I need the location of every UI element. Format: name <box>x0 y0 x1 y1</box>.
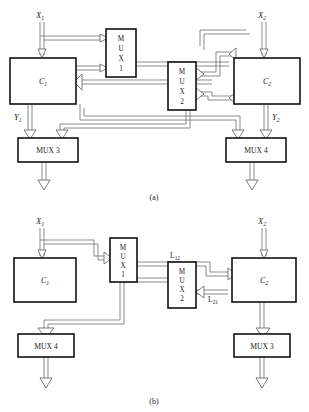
arrowhead-c2-to-mux2-b <box>196 88 204 100</box>
arrowhead-l21-to-mux2 <box>196 286 204 298</box>
block-mux3-label: MUX 3 <box>36 146 60 155</box>
block-mux2-letter-0: M <box>179 68 186 76</box>
block-mux4-label-b: MUX 4 <box>34 342 58 351</box>
input-x2-label: X2 <box>257 10 266 21</box>
input-x1-label: X1 <box>35 10 44 21</box>
arrowhead-c2-to-mux2-a <box>196 68 204 80</box>
block-mux2-letter-3-b: 2 <box>180 295 184 303</box>
block-mux1-letter-1: U <box>118 45 124 53</box>
signal-l21-label: L21 <box>208 295 218 305</box>
block-mux1-letter-2: X <box>118 55 124 63</box>
block-mux3-label-b: MUX 3 <box>250 342 274 351</box>
block-mux4-label: MUX 4 <box>244 146 268 155</box>
block-mux1-letter-3-b: 1 <box>121 271 125 279</box>
figure-root: C1 M U X 1 M U X 2 C2 MUX 3 MUX 4 X1 X2 … <box>0 0 309 412</box>
arrowhead-mux3-output-b <box>256 378 268 388</box>
caption-b: (b) <box>149 397 159 406</box>
block-mux2-letter-1: U <box>179 78 185 86</box>
block-mux2-letter-2: X <box>179 88 185 96</box>
arrowhead-mux3-output <box>38 180 50 190</box>
block-diagram-figure: C1 M U X 1 M U X 2 C2 MUX 3 MUX 4 X1 X2 … <box>0 0 309 412</box>
block-mux2-letter-2-b: X <box>179 286 185 294</box>
block-mux1-letter-0-b: M <box>120 244 127 252</box>
diagram-a: C1 M U X 1 M U X 2 C2 MUX 3 MUX 4 X1 X2 … <box>10 10 300 202</box>
block-mux2-letter-1-b: U <box>179 277 185 285</box>
arrowhead-mux4-output-b <box>40 378 52 388</box>
arrowhead-x1-to-c1 <box>38 49 46 58</box>
block-mux1-letter-1-b: U <box>120 253 126 261</box>
output-y1-label: Y1 <box>14 112 22 123</box>
input-x2-label-b: X2 <box>257 216 266 227</box>
block-mux1-letter-2-b: X <box>120 262 126 270</box>
output-y2-label: Y2 <box>272 112 280 123</box>
block-mux1-letter-3: 1 <box>119 65 123 73</box>
signal-l12-label: L12 <box>170 251 180 261</box>
block-mux2-letter-0-b: M <box>179 268 186 276</box>
diagram-b: C1 M U X 1 M U X 2 C2 MUX 4 MUX 3 X1 X2 … <box>14 216 296 406</box>
arrowhead-x2-to-c2 <box>260 49 268 58</box>
caption-a: (a) <box>150 193 159 202</box>
block-mux1-letter-0: M <box>118 35 125 43</box>
block-mux2-letter-3: 2 <box>180 98 184 106</box>
arrowhead-mux4-output <box>246 180 258 190</box>
input-x1-label-b: X1 <box>35 216 44 227</box>
